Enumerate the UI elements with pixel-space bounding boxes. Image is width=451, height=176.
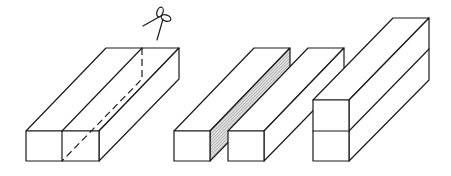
original-block (26, 48, 179, 161)
scissors-icon (143, 6, 172, 40)
bar-left-front-face (174, 131, 210, 161)
bar-right-front-face (228, 131, 264, 161)
diagram-canvas (0, 0, 451, 176)
diagram-stage: Cutting a rectangular block lengthwise i… (0, 0, 451, 176)
stacked-bars (313, 18, 429, 161)
